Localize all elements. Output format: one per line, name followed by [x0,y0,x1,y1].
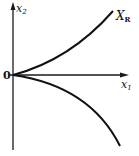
x2-axis-arrowhead-icon [11,2,16,10]
x2-axis-label: x2 [16,3,27,16]
lower-curve [13,75,120,146]
x1-axis-arrowhead-icon [120,73,129,78]
x1-axis-label: x1 [121,79,132,92]
origin-label: 0 [3,70,11,81]
upper-curve-label: XR [116,10,130,23]
upper-curve-xr [13,11,113,75]
phase-diagram [0,0,139,156]
